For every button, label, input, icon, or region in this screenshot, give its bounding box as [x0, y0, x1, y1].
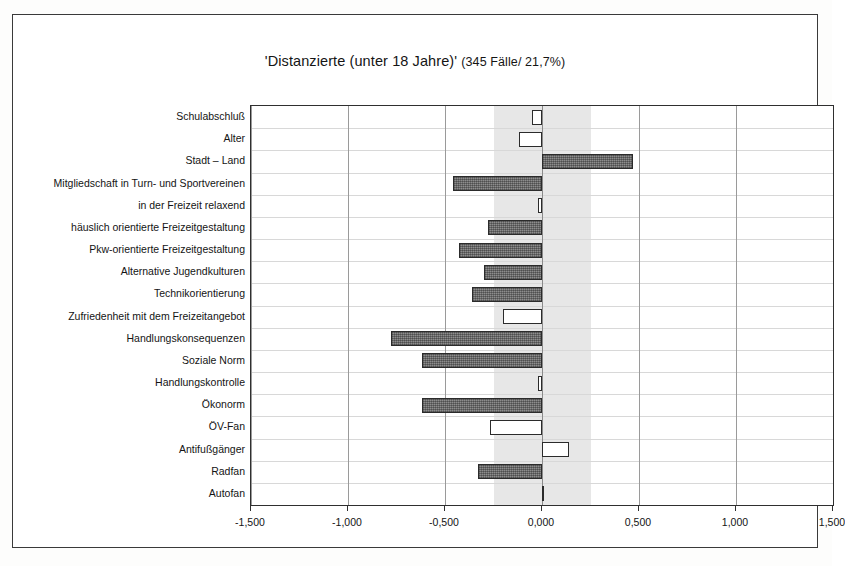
bar[interactable] [532, 110, 542, 125]
category-label: Schulabschluß [15, 110, 245, 122]
category-label: Soziale Norm [15, 354, 245, 366]
category-label: Alternative Jugendkulturen [15, 265, 245, 277]
category-axis-labels: SchulabschlußAlterStadt – LandMitgliedsc… [13, 105, 245, 506]
bar[interactable] [542, 154, 633, 169]
category-label: Autofan [15, 487, 245, 499]
x-tick-label: 1,000 [722, 516, 748, 528]
chart-title: 'Distanzierte (unter 18 Jahre)' (345 Fäl… [13, 53, 817, 69]
gridline-vertical [736, 106, 737, 505]
category-label: Pkw-orientierte Freizeitgestaltung [15, 243, 245, 255]
bar[interactable] [542, 442, 569, 457]
bar[interactable] [422, 353, 542, 368]
category-label: Mitgliedschaft in Turn- und Sportvereine… [15, 177, 245, 189]
x-tick-mark [832, 506, 833, 511]
bar[interactable] [459, 243, 542, 258]
gridline-vertical [445, 106, 446, 505]
category-label: Handlungskontrolle [15, 376, 245, 388]
figure-frame: 'Distanzierte (unter 18 Jahre)' (345 Fäl… [12, 14, 818, 548]
category-label: Technikorientierung [15, 287, 245, 299]
gridline-vertical [348, 106, 349, 505]
gridline-vertical [251, 106, 252, 505]
category-label: Stadt – Land [15, 154, 245, 166]
bar[interactable] [519, 132, 542, 147]
bar[interactable] [503, 309, 542, 324]
x-tick-mark [250, 506, 251, 511]
bar[interactable] [490, 420, 542, 435]
bar[interactable] [472, 287, 542, 302]
category-label: ÖV-Fan [15, 420, 245, 432]
x-tick-mark [541, 506, 542, 511]
gridline-vertical [833, 106, 834, 505]
x-tick-label: 0,500 [625, 516, 651, 528]
bar[interactable] [488, 220, 542, 235]
bar[interactable] [538, 198, 542, 213]
bar[interactable] [453, 176, 542, 191]
x-tick-label: -0,500 [429, 516, 459, 528]
category-label: in der Freizeit relaxend [15, 199, 245, 211]
bar[interactable] [484, 265, 542, 280]
bar[interactable] [542, 486, 544, 501]
category-label: Zufriedenheit mit dem Freizeitangebot [15, 310, 245, 322]
x-tick-label: -1,500 [235, 516, 265, 528]
category-label: Antifußgänger [15, 443, 245, 455]
x-tick-mark [735, 506, 736, 511]
x-tick-mark [444, 506, 445, 511]
value-axis: -1,500-1,000-0,5000,0000,5001,0001,500 [250, 506, 834, 540]
category-label: Radfan [15, 465, 245, 477]
gridline-vertical [639, 106, 640, 505]
chart-title-main: 'Distanzierte (unter 18 Jahre)' [265, 53, 457, 69]
x-tick-label: 0,000 [528, 516, 554, 528]
x-tick-label: 1,500 [819, 516, 845, 528]
bar[interactable] [538, 376, 542, 391]
category-label: Handlungskonsequenzen [15, 332, 245, 344]
category-label: Ökonorm [15, 398, 245, 410]
plot-area [250, 105, 834, 506]
category-label: häuslich orientierte Freizeitgestaltung [15, 221, 245, 233]
bar[interactable] [422, 398, 542, 413]
bar[interactable] [478, 464, 542, 479]
x-tick-mark [347, 506, 348, 511]
chart-title-sub: (345 Fälle/ 21,7%) [461, 55, 565, 69]
bar[interactable] [391, 331, 542, 346]
x-tick-label: -1,000 [332, 516, 362, 528]
category-label: Alter [15, 132, 245, 144]
x-tick-mark [638, 506, 639, 511]
